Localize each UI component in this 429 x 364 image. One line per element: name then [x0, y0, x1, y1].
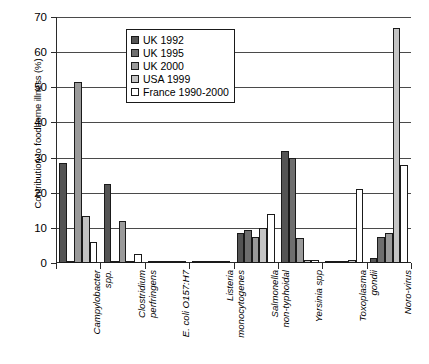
- bar: [156, 261, 164, 263]
- bar: [237, 233, 245, 263]
- bar: [126, 261, 134, 263]
- y-tick-label: 0: [41, 257, 47, 269]
- bar: [377, 237, 385, 263]
- x-tick-mark: [145, 263, 146, 269]
- bar: [148, 261, 156, 263]
- bar: [223, 261, 231, 263]
- bar: [215, 261, 223, 263]
- x-category-label: Toxoplasma gondii: [358, 270, 379, 362]
- x-category-label: Salmonella non-typhoidal: [270, 270, 291, 362]
- legend-label: France 1990-2000: [143, 86, 229, 98]
- bar: [59, 163, 67, 263]
- legend-label: UK 1992: [143, 34, 184, 46]
- bar: [267, 214, 275, 263]
- bar: [163, 261, 171, 263]
- y-tick-label: 30: [34, 152, 47, 164]
- bar-group: [234, 17, 278, 263]
- x-category-label: Campylobacter spp.: [92, 270, 113, 362]
- bar: [74, 82, 82, 263]
- x-tick-mark: [56, 263, 57, 269]
- bar: [281, 151, 289, 263]
- bar: [385, 233, 393, 263]
- legend-swatch-icon: [131, 36, 139, 44]
- legend-swatch-icon: [131, 49, 139, 57]
- y-tick-label: 60: [34, 46, 47, 58]
- legend-label: UK 1995: [143, 47, 184, 59]
- legend-swatch-icon: [131, 88, 139, 96]
- bar: [82, 216, 90, 263]
- bar: [208, 261, 216, 263]
- x-axis-labels: Campylobacter spp.Clostridium perfringen…: [56, 270, 411, 364]
- bar-group: [278, 17, 322, 263]
- x-tick-mark: [367, 263, 368, 269]
- x-tick-mark: [278, 263, 279, 269]
- legend: UK 1992UK 1995UK 2000USA 1999France 1990…: [126, 29, 235, 103]
- x-category-label: Noro-virus: [403, 270, 414, 362]
- x-tick-mark: [100, 263, 101, 269]
- bar: [200, 261, 208, 263]
- bar: [104, 184, 112, 263]
- bar-chart: Contribution to foodborne illness (%) 01…: [0, 0, 429, 364]
- legend-item: USA 1999: [131, 73, 229, 86]
- bar: [259, 228, 267, 263]
- bar: [296, 238, 304, 263]
- y-axis-ticks: 010203040506070: [0, 0, 56, 264]
- bar-group: [322, 17, 366, 263]
- y-tick-label: 50: [34, 81, 47, 93]
- bar: [356, 189, 364, 263]
- legend-item: UK 1995: [131, 46, 229, 59]
- bar: [341, 261, 349, 263]
- legend-label: USA 1999: [143, 73, 190, 85]
- bar: [119, 221, 127, 263]
- x-category-label: Clostridium perfringens: [137, 270, 158, 362]
- legend-label: UK 2000: [143, 60, 184, 72]
- bar: [370, 258, 378, 263]
- bar: [171, 261, 179, 263]
- bar: [178, 261, 186, 263]
- bar: [400, 165, 408, 263]
- y-tick-label: 40: [34, 116, 47, 128]
- bar: [304, 260, 312, 264]
- legend-swatch-icon: [131, 62, 139, 70]
- legend-item: UK 2000: [131, 59, 229, 72]
- y-tick-label: 20: [34, 187, 47, 199]
- bar: [111, 261, 119, 263]
- x-category-label: Yersinia spp: [314, 270, 325, 362]
- y-tick-label: 70: [34, 11, 47, 23]
- bar: [244, 230, 252, 263]
- bar: [192, 261, 200, 263]
- x-category-label: E. coli O157:H7: [181, 270, 192, 362]
- bar: [289, 158, 297, 263]
- bar: [325, 261, 333, 263]
- bar: [134, 254, 142, 263]
- x-tick-mark: [411, 263, 412, 269]
- bar-group: [56, 17, 100, 263]
- bar: [90, 242, 98, 263]
- x-tick-mark: [322, 263, 323, 269]
- legend-swatch-icon: [131, 75, 139, 83]
- bar: [348, 260, 356, 263]
- legend-item: France 1990-2000: [131, 86, 229, 99]
- y-tick-label: 10: [34, 222, 47, 234]
- legend-item: UK 1992: [131, 33, 229, 46]
- x-tick-mark: [189, 263, 190, 269]
- x-category-label: Listeria monocytogenes: [225, 270, 246, 362]
- bar-group: [367, 17, 411, 263]
- bar: [393, 28, 401, 263]
- bar: [252, 237, 260, 263]
- bar: [311, 260, 319, 263]
- x-tick-mark: [234, 263, 235, 269]
- bar: [67, 261, 75, 263]
- bar: [333, 261, 341, 263]
